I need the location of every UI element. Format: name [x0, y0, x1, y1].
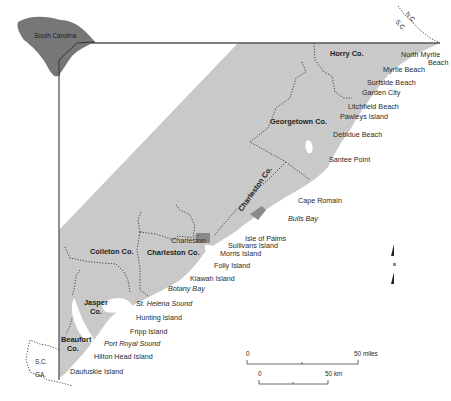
scale-bar-km: 0 50 km [258, 370, 342, 384]
charleston-harbor-water [205, 245, 215, 255]
place-debidue-beach: Debidue Beach [333, 130, 382, 139]
place-fripp-island: Fripp Island [130, 327, 168, 336]
state-label-sc-south: S.C. [35, 358, 48, 365]
state-label-nc: N.C. [404, 10, 418, 24]
county-label-charleston: Charleston Co. [147, 248, 200, 257]
svg-text:0: 0 [246, 350, 250, 357]
place-north-myrtle-beach-2: Beach [428, 58, 448, 67]
scale-bar-miles: 0 50 miles [246, 350, 378, 364]
water-botany-bay: Botany Bay [168, 284, 205, 293]
water-bulls-bay: Bulls Bay [288, 214, 318, 223]
north-arrow-icon [391, 244, 396, 284]
place-surfside-beach: Surfside Beach [367, 78, 416, 87]
place-cape-romain: Cape Romain [298, 196, 342, 205]
coastal-map: South Carolina N.C. S.C. S.C. GA. Horry … [0, 0, 451, 401]
county-label-georgetown: Georgetown Co. [270, 117, 327, 126]
state-label-ga: GA. [35, 371, 46, 378]
place-daufuskie-island: Daufuskie Island [70, 367, 123, 376]
place-charleston: Charleston [171, 236, 206, 245]
svg-text:0: 0 [258, 370, 262, 377]
place-kiawah-island: Kiawah Island [190, 274, 235, 283]
inset-label: South Carolina [34, 32, 77, 39]
place-litchfield-beach: Litchfield Beach [348, 102, 399, 111]
place-garden-city: Garden City [362, 88, 401, 97]
south-carolina-inset-shape [17, 17, 95, 77]
county-label-horry: Horry Co. [330, 49, 364, 58]
svg-text:50 miles: 50 miles [354, 350, 378, 357]
place-hilton-head-island: Hilton Head Island [94, 352, 153, 361]
water-port-royal-sound: Port Royal Sound [104, 339, 161, 348]
county-label-jasper-1: Jasper [84, 298, 108, 307]
place-pawleys-island: Pawleys Island [340, 112, 388, 121]
svg-text:50 km: 50 km [325, 370, 342, 377]
county-label-beaufort-2: Co. [67, 344, 79, 353]
place-santee-point: Santee Point [329, 155, 370, 164]
state-label-sc-north: S.C. [394, 18, 408, 32]
county-label-beaufort-1: Beaufort [61, 335, 92, 344]
water-st-helena-sound: St. Helena Sound [136, 299, 193, 308]
place-hunting-island: Hunting Island [136, 313, 182, 322]
county-label-jasper-2: Co. [90, 307, 102, 316]
place-myrtle-beach: Myrtle Beach [383, 65, 425, 74]
place-morris-island: Morris Island [220, 249, 261, 258]
county-label-colleton: Colleton Co. [90, 247, 134, 256]
place-folly-island: Folly Island [214, 261, 250, 270]
